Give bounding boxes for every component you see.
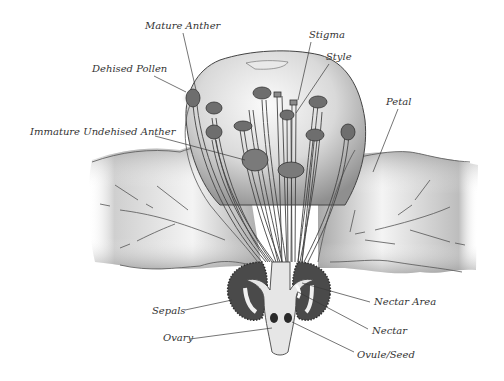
label-style: Style [326, 51, 352, 63]
leader-mature-anther [183, 33, 196, 90]
label-immature-undehised-anther: Immature Undehised Anther [30, 126, 176, 138]
ovule-right [284, 313, 292, 323]
label-nectar-area: Nectar Area [374, 296, 436, 308]
flower-illustration [0, 0, 504, 381]
leader-ovary [190, 328, 272, 339]
leader-sepals [185, 300, 232, 310]
label-sepals: Sepals [152, 305, 185, 317]
ovule-left [270, 313, 278, 323]
label-petal: Petal [386, 96, 411, 108]
label-ovary: Ovary [163, 332, 193, 344]
label-nectar: Nectar [372, 325, 407, 337]
mature-anther-shape [186, 89, 200, 107]
label-ovule-seed: Ovule/Seed [357, 349, 415, 361]
flower-anatomy-diagram: Mature Anther Dehised Pollen Immature Un… [0, 0, 504, 381]
label-stigma: Stigma [309, 29, 345, 41]
immature-anther-shape [242, 149, 268, 171]
label-dehised-pollen: Dehised Pollen [92, 63, 167, 75]
leader-ovule-seed [292, 322, 354, 352]
leader-dehised-pollen [154, 76, 186, 92]
label-mature-anther: Mature Anther [145, 20, 220, 32]
